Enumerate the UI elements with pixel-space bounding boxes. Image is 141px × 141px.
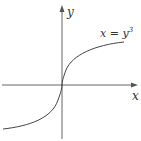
graph: y x x = y3 <box>0 0 141 141</box>
x-axis <box>2 83 138 88</box>
x-axis-arrow-icon <box>131 83 138 88</box>
curve-label: x = y3 <box>100 26 134 40</box>
curve-label-lhs: x = y <box>100 27 129 40</box>
curve-label-exponent: 3 <box>129 26 134 34</box>
y-axis-arrow-icon <box>60 5 65 12</box>
x-axis-label: x <box>132 89 139 103</box>
curve-x-equals-y-cubed <box>3 42 124 129</box>
y-axis <box>60 5 65 139</box>
y-axis-label: y <box>66 5 74 19</box>
